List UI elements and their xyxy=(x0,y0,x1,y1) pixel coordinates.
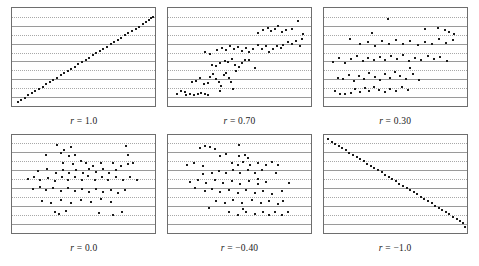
data-point xyxy=(285,29,287,31)
data-point xyxy=(50,202,52,204)
correlation-value: 0.30 xyxy=(394,116,411,126)
plot-area-panel-r-0-70 xyxy=(167,7,312,107)
data-point xyxy=(462,222,464,224)
data-point xyxy=(242,161,244,163)
data-point xyxy=(254,172,256,174)
correlation-value: 1.0 xyxy=(85,116,97,126)
data-point xyxy=(199,147,201,149)
data-point xyxy=(197,179,199,181)
data-point xyxy=(228,77,230,79)
data-point xyxy=(452,216,454,218)
data-point xyxy=(184,91,186,93)
data-point xyxy=(39,179,41,181)
data-point xyxy=(204,145,206,147)
data-point xyxy=(239,172,241,174)
data-point xyxy=(225,49,227,51)
data-point xyxy=(254,192,256,194)
correlation-symbol: r xyxy=(223,116,227,126)
data-point xyxy=(275,172,277,174)
data-point xyxy=(228,211,230,213)
data-point xyxy=(239,183,241,185)
data-point xyxy=(377,169,379,171)
data-point xyxy=(438,207,440,209)
data-point xyxy=(237,192,239,194)
data-point xyxy=(24,97,26,99)
data-point xyxy=(205,182,207,184)
data-point xyxy=(225,172,227,174)
data-point xyxy=(220,85,222,87)
data-point xyxy=(74,176,76,178)
data-point xyxy=(244,59,246,61)
data-point xyxy=(117,192,119,194)
data-point xyxy=(348,152,350,154)
data-point xyxy=(378,89,380,91)
data-point xyxy=(204,93,206,95)
data-point xyxy=(115,176,117,178)
data-point xyxy=(261,48,263,50)
data-point xyxy=(389,88,391,90)
data-point xyxy=(257,178,259,180)
data-point xyxy=(72,163,74,165)
data-point xyxy=(80,199,82,201)
data-point xyxy=(221,47,223,49)
data-point xyxy=(359,158,361,160)
correlation-symbol: r xyxy=(70,116,74,126)
data-point xyxy=(142,23,144,25)
data-point xyxy=(453,33,455,35)
data-point xyxy=(197,93,199,95)
data-point xyxy=(345,149,347,151)
data-point xyxy=(353,80,355,82)
data-point xyxy=(67,179,69,181)
data-point xyxy=(100,162,102,164)
data-point xyxy=(277,25,279,27)
data-point xyxy=(384,91,386,93)
data-point xyxy=(98,212,100,214)
data-point xyxy=(33,176,35,178)
data-points xyxy=(324,8,467,106)
data-point xyxy=(106,46,108,48)
data-point xyxy=(74,66,76,68)
data-point xyxy=(200,92,202,94)
data-point xyxy=(295,40,297,42)
data-point xyxy=(208,207,210,209)
panel-panel-r-0-30: r = 0.30 xyxy=(317,7,473,134)
data-point xyxy=(265,181,267,183)
data-point xyxy=(47,177,49,179)
data-point xyxy=(297,20,299,22)
panel-label-panel-r-0-0: r = 0.0 xyxy=(70,243,97,253)
data-point xyxy=(41,200,43,202)
data-point xyxy=(45,154,47,156)
data-point xyxy=(368,72,370,74)
data-point xyxy=(417,44,419,46)
data-point xyxy=(81,188,83,190)
data-point xyxy=(199,77,201,79)
equals-sign: = xyxy=(230,116,236,126)
data-point xyxy=(271,193,273,195)
data-point xyxy=(349,38,351,40)
data-point xyxy=(214,179,216,181)
data-point xyxy=(32,188,34,190)
data-point xyxy=(219,62,221,64)
data-point xyxy=(379,56,381,58)
data-point xyxy=(344,93,346,95)
data-point xyxy=(60,190,62,192)
data-point xyxy=(191,81,193,83)
plot-area-panel-r-1-0-neg xyxy=(323,134,468,234)
data-point xyxy=(287,41,289,43)
data-point xyxy=(418,79,420,81)
data-point xyxy=(245,211,247,213)
data-point xyxy=(138,26,140,28)
data-point xyxy=(37,170,39,172)
data-point xyxy=(359,43,361,45)
data-point xyxy=(204,51,206,53)
data-point xyxy=(219,155,221,157)
data-point xyxy=(224,60,226,62)
data-point xyxy=(232,199,234,201)
data-point xyxy=(402,43,404,45)
equals-sign: = xyxy=(77,116,83,126)
data-point xyxy=(120,165,122,167)
data-point xyxy=(261,169,263,171)
data-point xyxy=(215,200,217,202)
data-point xyxy=(395,39,397,41)
correlation-value: 0.70 xyxy=(238,116,255,126)
